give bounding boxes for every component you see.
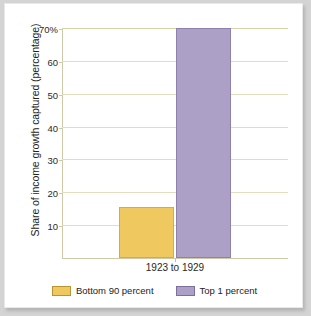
y-tick-mark-50 — [59, 95, 62, 96]
y-tick-label-40: 40 — [47, 122, 58, 133]
gridline-20: 20 — [62, 192, 288, 193]
gridline-40: 40 — [62, 127, 288, 128]
legend-swatch-icon-0 — [52, 286, 71, 296]
y-tick-mark-30 — [59, 160, 62, 161]
y-tick-mark-20 — [59, 193, 62, 194]
y-tick-label-10: 10 — [47, 221, 58, 232]
y-tick-label-50: 50 — [47, 89, 58, 100]
chart-card: Share of income growth captured (percent… — [4, 3, 303, 308]
y-tick-label-70: 70% — [39, 24, 58, 35]
gridline-70: 70% — [62, 28, 288, 29]
gridline-30: 30 — [62, 159, 288, 160]
x-axis-category-label: 1923 to 1929 — [62, 262, 288, 273]
legend-item-1[interactable]: Top 1 percent — [176, 285, 258, 296]
legend-item-0[interactable]: Bottom 90 percent — [52, 285, 154, 296]
legend-swatch-icon-1 — [176, 286, 195, 296]
gridline-10: 10 — [62, 225, 288, 226]
plot-area: 10203040506070% — [62, 28, 288, 258]
y-axis-title: Share of income growth captured (percent… — [29, 10, 41, 250]
y-tick-mark-10 — [59, 226, 62, 227]
bar-top-1-percent — [176, 28, 231, 258]
gridline-60: 60 — [62, 61, 288, 62]
y-tick-mark-40 — [59, 128, 62, 129]
bar-bottom-90-percent — [119, 207, 174, 258]
legend-label-1: Top 1 percent — [200, 285, 258, 296]
legend-label-0: Bottom 90 percent — [76, 285, 154, 296]
y-tick-label-30: 30 — [47, 155, 58, 166]
gridline-50: 50 — [62, 94, 288, 95]
chart-legend: Bottom 90 percentTop 1 percent — [5, 285, 304, 296]
y-tick-label-60: 60 — [47, 56, 58, 67]
plot-frame — [62, 28, 288, 258]
y-tick-mark-60 — [59, 62, 62, 63]
chart-figure: Share of income growth captured (percent… — [0, 0, 311, 316]
y-tick-mark-70 — [59, 29, 62, 30]
y-tick-label-20: 20 — [47, 188, 58, 199]
